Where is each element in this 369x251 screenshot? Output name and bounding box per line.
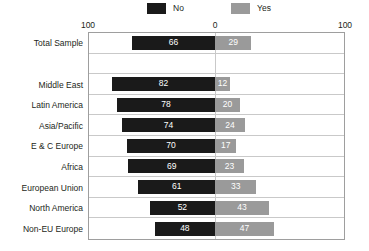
legend-swatch-yes-icon: [231, 3, 250, 14]
bar-row: 5243: [89, 198, 344, 219]
axis-tick-right: 100: [338, 19, 352, 31]
bar-no: 66: [132, 36, 215, 50]
plot-area: 662982127820742470176923613352434847: [89, 33, 344, 239]
bar-row: 7017: [89, 136, 344, 157]
category-axis: Total SampleMiddle EastLatin AmericaAsia…: [0, 32, 86, 240]
bar-value-yes: 24: [225, 121, 234, 130]
bar-no: 48: [155, 222, 215, 236]
axis-tick-left: 100: [81, 19, 95, 31]
bar-no: 70: [127, 139, 215, 153]
category-label: Latin America: [32, 100, 84, 110]
bar-value-yes: 33: [231, 182, 240, 191]
chart-frame: 662982127820742470176923613352434847: [88, 32, 345, 240]
bar-value-yes: 12: [218, 79, 227, 88]
bar-no: 78: [117, 98, 215, 112]
category-label: E & C Europe: [31, 141, 83, 151]
category-label: Africa: [61, 162, 83, 172]
bar-yes: 12: [215, 77, 230, 91]
bar-value-yes: 47: [240, 224, 249, 233]
spacer-row: [89, 54, 344, 75]
bar-no: 82: [112, 77, 215, 91]
bar-value-yes: 20: [223, 100, 232, 109]
legend-swatch-no-icon: [147, 3, 166, 14]
bar-value-no: 61: [172, 182, 181, 191]
bar-value-yes: 17: [221, 141, 230, 150]
legend-item-no: No: [147, 3, 184, 14]
bar-yes: 24: [215, 118, 245, 132]
bar-yes: 47: [215, 222, 274, 236]
bar-value-no: 74: [164, 121, 173, 130]
bar-row: 6923: [89, 157, 344, 178]
bar-yes: 20: [215, 98, 240, 112]
bar-yes: 33: [215, 180, 256, 194]
category-label: Non-EU Europe: [23, 224, 83, 234]
category-label: Asia/Pacific: [39, 121, 83, 131]
bar-row: 6629: [89, 33, 344, 54]
bar-value-yes: 43: [237, 203, 246, 212]
category-label: European Union: [22, 183, 83, 193]
bar-yes: 17: [215, 139, 236, 153]
legend-label-no: No: [173, 3, 184, 14]
bar-value-no: 69: [167, 162, 176, 171]
bar-yes: 23: [215, 159, 244, 173]
bar-yes: 43: [215, 201, 269, 215]
bar-no: 74: [122, 118, 215, 132]
bar-row: 8212: [89, 74, 344, 95]
bar-value-no: 70: [166, 141, 175, 150]
axis-tick-center: 0: [213, 19, 218, 31]
category-label: North America: [29, 203, 83, 213]
legend-item-yes: Yes: [231, 3, 271, 14]
bar-value-yes: 23: [225, 162, 234, 171]
category-label: Total Sample: [34, 38, 83, 48]
bar-value-yes: 29: [228, 38, 237, 47]
bar-row: 6133: [89, 177, 344, 198]
bar-row: 4847: [89, 218, 344, 239]
bar-row: 7820: [89, 95, 344, 116]
bar-value-no: 66: [169, 38, 178, 47]
bar-value-no: 48: [180, 224, 189, 233]
bar-value-no: 78: [161, 100, 170, 109]
bar-no: 69: [128, 159, 215, 173]
legend-label-yes: Yes: [257, 3, 271, 14]
bar-no: 61: [138, 180, 215, 194]
bar-row: 7424: [89, 115, 344, 136]
category-label: Middle East: [39, 80, 83, 90]
bar-no: 52: [150, 201, 215, 215]
bar-value-no: 82: [159, 79, 168, 88]
bar-value-no: 52: [178, 203, 187, 212]
chart-legend: No Yes: [0, 1, 369, 18]
axis-tick-row: 100 0 100: [0, 19, 369, 31]
bar-yes: 29: [215, 36, 251, 50]
